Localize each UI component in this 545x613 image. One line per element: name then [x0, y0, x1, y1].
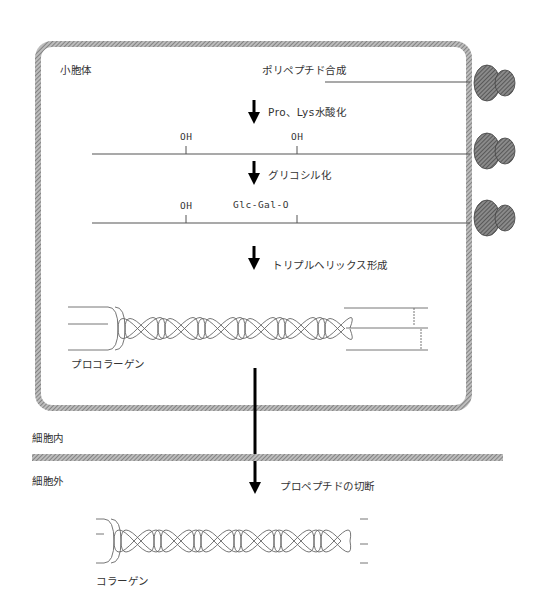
endoplasmic-reticulum-box: [38, 44, 469, 408]
step-label-hydroxylation: Pro、Lys水酸化: [268, 104, 346, 119]
organelle-label: 小胞体: [60, 62, 92, 77]
intracellular-label: 細胞内: [32, 430, 64, 445]
step-label-triple-helix: トリプルヘリックス形成: [272, 257, 388, 272]
extracellular-label: 細胞外: [32, 473, 64, 488]
ribosome-icon: [474, 65, 515, 101]
procollagen-label: プロコラーゲン: [71, 356, 145, 371]
ribosome-icon: [474, 133, 515, 169]
down-arrow-icon: [249, 368, 261, 494]
chain3-mod-oh: OH: [180, 200, 192, 211]
down-arrow-icon: [248, 161, 260, 185]
step-label-propeptide-cleavage: プロペプチドの切断: [280, 478, 375, 493]
cell-membrane: [32, 454, 503, 461]
collagen-diagram-canvas: [0, 0, 545, 613]
collagen-triple-helix: [96, 519, 368, 563]
down-arrow-icon: [248, 246, 260, 270]
polypeptide-chain-3: [92, 215, 470, 223]
step-label-polypeptide-synthesis: ポリペプチド合成: [262, 62, 346, 77]
collagen-label: コラーゲン: [96, 573, 149, 588]
procollagen-triple-helix: [68, 307, 428, 350]
chain2-mod-oh-2: OH: [291, 131, 303, 142]
chain3-mod-glc-gal: Glc-Gal-O: [233, 199, 289, 210]
step-label-glycosylation: グリコシル化: [268, 167, 331, 182]
ribosome-icon: [474, 200, 515, 236]
down-arrow-icon: [248, 100, 260, 124]
chain2-mod-oh-1: OH: [180, 131, 192, 142]
polypeptide-chain-2: [92, 146, 470, 154]
